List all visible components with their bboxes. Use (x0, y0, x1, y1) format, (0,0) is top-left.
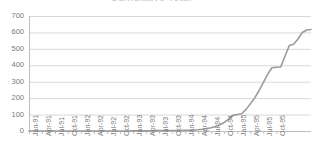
y-axis-tick-label: 700 (0, 12, 24, 20)
x-axis-tick-label: Apr-93 (149, 115, 156, 136)
x-axis-tick-label: Apr-92 (97, 115, 104, 136)
y-axis-tick-label: 400 (0, 61, 24, 69)
y-axis-tick-label: 0 (0, 127, 24, 135)
x-axis-tick-label: Jul-93 (162, 117, 169, 136)
x-axis-tick-label: Jan-94 (188, 115, 195, 136)
chart-container: Cumulative Total 7006005004003002001000 … (0, 0, 315, 168)
x-axis-tick-label: Jul-91 (58, 117, 65, 136)
x-axis-tick-label: Jan-92 (84, 115, 91, 136)
x-axis-tick-label: Jan-91 (32, 115, 39, 136)
x-axis-tick-label: Jan-93 (136, 115, 143, 136)
chart-plot-area (0, 0, 315, 168)
x-axis-tick-label: Oct-95 (279, 115, 286, 136)
x-axis-tick-label: Jul-95 (266, 117, 273, 136)
y-axis-tick-label: 100 (0, 111, 24, 119)
x-axis-tick-label: Jan-95 (240, 115, 247, 136)
x-axis-tick-label: Oct-93 (175, 115, 182, 136)
y-axis-tick-label: 200 (0, 94, 24, 102)
x-axis-tick-label: Apr-95 (253, 115, 260, 136)
x-axis-tick-label: Jul-92 (110, 117, 117, 136)
x-axis-tick-label: Apr-91 (45, 115, 52, 136)
y-axis-tick-label: 600 (0, 28, 24, 36)
x-axis-tick-label: Jul-94 (214, 117, 221, 136)
y-axis-tick-label: 300 (0, 78, 24, 86)
x-axis-tick-label: Oct-92 (123, 115, 130, 136)
x-axis-tick-label: Oct-94 (227, 115, 234, 136)
x-axis-tick-label: Apr-94 (201, 115, 208, 136)
y-axis-tick-label: 500 (0, 45, 24, 53)
x-axis-tick-label: Oct-91 (71, 115, 78, 136)
